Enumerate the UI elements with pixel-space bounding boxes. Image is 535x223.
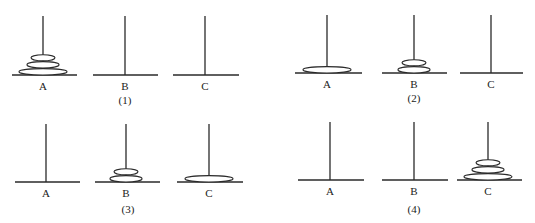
panel-caption: (4) bbox=[408, 204, 421, 215]
peg-a bbox=[15, 124, 80, 182]
peg-c bbox=[457, 122, 522, 180]
disk-3 bbox=[303, 67, 351, 73]
disk-3 bbox=[464, 174, 512, 180]
diagram-canvas bbox=[0, 0, 535, 223]
peg-b bbox=[93, 16, 158, 75]
peg-c bbox=[173, 16, 239, 75]
peg-label: C bbox=[201, 81, 208, 92]
peg-label: A bbox=[42, 188, 50, 199]
peg-label: C bbox=[487, 79, 494, 90]
peg-c bbox=[460, 15, 523, 73]
peg-b bbox=[382, 122, 448, 180]
panel-1 bbox=[12, 16, 239, 75]
peg-label: B bbox=[121, 81, 128, 92]
peg-label: C bbox=[484, 186, 491, 197]
peg-label: B bbox=[410, 79, 417, 90]
peg-label: A bbox=[326, 186, 334, 197]
panel-caption: (1) bbox=[119, 95, 132, 106]
peg-b bbox=[382, 15, 447, 73]
disk-1 bbox=[476, 160, 500, 166]
panel-2 bbox=[295, 15, 523, 73]
peg-a bbox=[298, 122, 364, 180]
peg-label: B bbox=[410, 186, 417, 197]
peg-c bbox=[177, 124, 243, 182]
disk-3 bbox=[19, 69, 67, 75]
disk-1 bbox=[31, 55, 55, 61]
disk-2 bbox=[110, 176, 142, 182]
panel-3 bbox=[15, 124, 243, 182]
panel-4 bbox=[298, 122, 522, 180]
disk-2 bbox=[472, 167, 504, 173]
disk-3 bbox=[185, 176, 233, 182]
panel-caption: (3) bbox=[122, 204, 135, 215]
peg-label: C bbox=[205, 188, 212, 199]
disk-1 bbox=[114, 169, 138, 175]
peg-label: A bbox=[323, 79, 331, 90]
disk-2 bbox=[27, 62, 59, 68]
peg-a bbox=[295, 15, 362, 73]
peg-b bbox=[95, 124, 160, 182]
peg-label: B bbox=[122, 188, 129, 199]
peg-a bbox=[12, 16, 77, 75]
disk-2 bbox=[398, 67, 430, 73]
peg-label: A bbox=[39, 81, 47, 92]
disk-1 bbox=[402, 60, 426, 66]
panel-caption: (2) bbox=[408, 93, 421, 104]
